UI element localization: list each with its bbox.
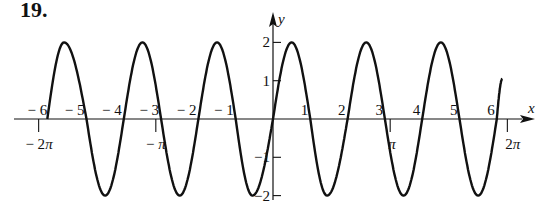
x-tick-label: 6: [487, 102, 495, 118]
graph: xy 21−1−2− 6− 5− 4− 3− 2− 1123456− 2π− π…: [0, 0, 541, 211]
x-tick-label: − 4: [102, 102, 122, 118]
x-tick-label: − 6: [27, 102, 47, 118]
y-tick-label: 2: [263, 34, 271, 50]
x-tick-label: 4: [413, 102, 421, 118]
x-tick-label: − 2: [177, 102, 197, 118]
x-tick-label: 2: [338, 102, 346, 118]
y-tick-label: 1: [263, 73, 271, 89]
pi-tick-label: 2π: [505, 136, 521, 152]
x-axis-arrow-icon: [520, 115, 535, 123]
x-tick-label: − 5: [65, 102, 85, 118]
y-axis-label: y: [276, 11, 285, 27]
x-tick-label: − 1: [214, 102, 234, 118]
x-tick-label: − 3: [139, 102, 159, 118]
x-axis-label: x: [527, 100, 535, 116]
pi-tick-label: − 2π: [25, 136, 53, 152]
